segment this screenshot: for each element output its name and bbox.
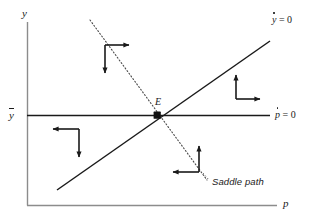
saddle-path-line xyxy=(90,20,207,180)
arrow-pair-upper-right xyxy=(236,75,260,99)
ydot-zero-label: y = 0 xyxy=(272,15,292,25)
pdot-accent: p xyxy=(275,110,280,120)
equilibrium-point-label: E xyxy=(155,97,161,107)
x-axis-label: p xyxy=(283,198,289,209)
saddle-path-leader xyxy=(203,173,209,180)
y-axis-label: y xyxy=(22,8,27,19)
y-bar-accent: y xyxy=(9,110,14,121)
phase-diagram-figure: y p y y = 0 p = 0 E Saddle path xyxy=(0,0,311,220)
pdot-zero-label: p = 0 xyxy=(275,110,296,120)
y-bar-tick-label: y xyxy=(9,110,14,121)
equilibrium-point-marker xyxy=(154,112,161,119)
ydot-equals-zero: = 0 xyxy=(276,14,292,25)
pdot-equals-zero: = 0 xyxy=(280,109,296,120)
ydot-accent: y xyxy=(272,15,276,25)
phase-diagram-canvas xyxy=(0,0,311,220)
arrow-pair-lower-right xyxy=(173,146,199,172)
saddle-path-label: Saddle path xyxy=(212,177,264,187)
arrow-pair-lower-left xyxy=(53,129,79,157)
